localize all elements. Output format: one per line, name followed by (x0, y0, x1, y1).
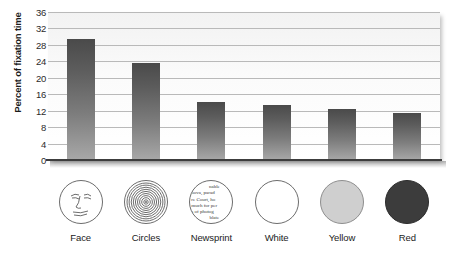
concentric-circles-icon (124, 180, 168, 224)
y-axis-tick-labels: 04812162024283236 (22, 0, 46, 170)
category-icons: nablenova, paradre Court, homuch for per… (48, 180, 440, 228)
gridline (48, 61, 440, 62)
y-tick-label: 28 (22, 39, 46, 50)
y-tick-label: 32 (22, 23, 46, 34)
white-circle-icon-slot (253, 180, 301, 228)
y-tick-label: 12 (22, 105, 46, 116)
gridline (48, 12, 440, 13)
y-axis-title: Percent of fixation time (12, 0, 23, 138)
y-tick-label: 16 (22, 89, 46, 100)
plot-area (48, 12, 440, 160)
yellow-circle-icon (320, 180, 364, 224)
face-icon (59, 180, 103, 224)
bar (132, 63, 160, 160)
face-icon-slot (57, 180, 105, 228)
bar (263, 105, 291, 161)
gridline (48, 45, 440, 46)
gridline (48, 78, 440, 79)
newsprint-text: nablenova, paradre Court, homuch for per… (189, 184, 233, 222)
y-tick-label: 20 (22, 72, 46, 83)
y-tick-label: 36 (22, 7, 46, 18)
gridline (48, 127, 440, 128)
gridline (48, 111, 440, 112)
yellow-circle-icon-slot (318, 180, 366, 228)
newsprint-icon-slot: nablenova, paradre Court, homuch for per… (187, 180, 235, 228)
gridline (48, 94, 440, 95)
concentric-circles-icon-slot (122, 180, 170, 228)
y-tick-label: 8 (22, 122, 46, 133)
white-circle-icon (255, 180, 299, 224)
category-labels: FaceCirclesNewsprintWhiteYellowRed (48, 232, 440, 248)
gridline (48, 144, 440, 145)
bar (67, 39, 95, 160)
y-tick-label: 24 (22, 56, 46, 67)
y-tick-label: 0 (22, 155, 46, 166)
newsprint-icon: nablenova, paradre Court, homuch for per… (189, 180, 233, 224)
y-tick-label: 4 (22, 138, 46, 149)
red-circle-icon (385, 180, 429, 224)
bar (328, 109, 356, 160)
bar (393, 113, 421, 160)
fixation-time-bar-chart: Percent of fixation time 048121620242832… (0, 0, 456, 256)
gridline (48, 28, 440, 29)
category-label: Red (367, 232, 447, 243)
red-circle-icon-slot (383, 180, 431, 228)
x-axis-shadow (50, 161, 446, 168)
bar (197, 102, 225, 160)
